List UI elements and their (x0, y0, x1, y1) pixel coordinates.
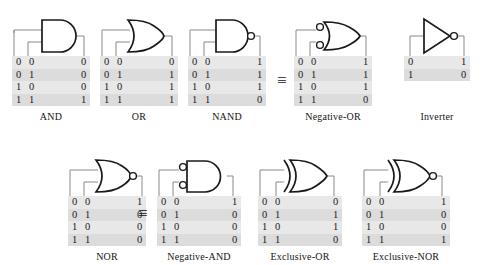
output-y: 1 (228, 197, 241, 208)
table-row: 1 1 0 (157, 234, 241, 247)
table-row: 0 1 0 (68, 209, 146, 222)
truth-table-exclusive-or: 0 0 0 0 1 1 1 0 1 1 1 0 (258, 196, 342, 246)
input-a: 1 (100, 95, 113, 106)
input-a: 0 (294, 70, 307, 81)
gate-label-or: OR (100, 111, 178, 122)
input-b: 1 (201, 70, 214, 81)
input-b: 0 (307, 57, 320, 68)
input-a: 1 (188, 95, 201, 106)
output-bubble-icon (451, 33, 458, 40)
table-row: 0 1 1 (100, 69, 178, 82)
xor-extra-curve (284, 160, 290, 192)
or-gate-icon (100, 8, 178, 56)
input-b: 0 (25, 82, 38, 93)
input-b: 1 (113, 70, 126, 81)
input-a: 1 (294, 95, 307, 106)
output-y: 1 (165, 70, 178, 81)
input-a: 1 (12, 95, 25, 106)
table-row: 0 0 1 (294, 56, 372, 69)
xnor-extra-curve (388, 160, 394, 192)
table-row: 0 1 1 (188, 69, 266, 82)
output-y: 0 (77, 82, 90, 93)
output-y: 1 (359, 70, 372, 81)
output-bubble-icon (130, 173, 137, 180)
negative-or-gate-icon (294, 8, 372, 56)
input-b: 1 (201, 95, 214, 106)
input-a: 1 (294, 82, 307, 93)
table-row: 1 0 1 (294, 81, 372, 94)
gate-label-inverter: Inverter (404, 111, 470, 122)
table-row: 0 0 0 (100, 56, 178, 69)
output-y: 0 (329, 197, 342, 208)
truth-table-nand: 0 0 1 0 1 1 1 0 1 1 1 0 (188, 56, 266, 106)
output-y: 0 (329, 235, 342, 246)
input-b: 1 (113, 95, 126, 106)
table-row: 1 1 0 (68, 234, 146, 247)
output-y: 0 (359, 95, 372, 106)
input-a: 1 (258, 222, 271, 233)
input-b: 1 (81, 210, 94, 221)
table-row: 1 0 0 (157, 221, 241, 234)
input-a: 0 (294, 57, 307, 68)
table-row: 0 1 0 (157, 209, 241, 222)
input-b: 1 (81, 235, 94, 246)
table-row: 0 1 (404, 56, 470, 69)
output-y: 0 (437, 222, 450, 233)
input-b: 0 (81, 197, 94, 208)
input-a: 0 (68, 197, 81, 208)
gate-cell-exclusive-nor: 0 0 1 0 1 0 1 0 0 1 1 1 (362, 148, 450, 262)
output-y: 1 (77, 95, 90, 106)
output-y: 1 (253, 70, 266, 81)
input-a: 0 (12, 70, 25, 81)
input-a: 0 (258, 210, 271, 221)
output-y: 1 (359, 57, 372, 68)
input-b: 0 (307, 82, 320, 93)
table-row: 1 1 0 (294, 94, 372, 107)
table-row: 1 0 1 (100, 81, 178, 94)
input-b: 1 (25, 95, 38, 106)
truth-table-negative-or: 0 0 1 0 1 1 1 0 1 1 1 0 (294, 56, 372, 106)
truth-table-negative-and: 0 0 1 0 1 0 1 0 0 1 1 0 (157, 196, 241, 246)
negative-and-gate-icon (157, 148, 241, 196)
and-gate-icon (12, 8, 90, 56)
input-a: 0 (188, 57, 201, 68)
gate-label-negative-or: Negative-OR (294, 111, 372, 122)
gate-label-nand: NAND (188, 111, 266, 122)
output-y: 0 (77, 57, 90, 68)
table-row: 1 1 1 (100, 94, 178, 107)
xnor-gate-icon (362, 148, 450, 196)
gate-cell-or: 0 0 0 0 1 1 1 0 1 1 1 1 (100, 8, 178, 122)
table-row: 1 0 (404, 69, 470, 82)
output-y: 1 (457, 57, 470, 68)
input-b: 1 (271, 210, 284, 221)
input-a: 0 (157, 197, 170, 208)
input-a: 0 (12, 57, 25, 68)
output-y: 0 (77, 70, 90, 81)
truth-table-or: 0 0 0 0 1 1 1 0 1 1 1 1 (100, 56, 178, 106)
gate-cell-nand: 0 0 1 0 1 1 1 0 1 1 1 0 (188, 8, 266, 122)
truth-table-and: 0 0 0 0 1 0 1 0 0 1 1 1 (12, 56, 90, 106)
output-bubble-icon (430, 173, 437, 180)
table-row: 1 1 0 (258, 234, 342, 247)
input-b: 0 (201, 57, 214, 68)
nand-gate-icon (188, 8, 266, 56)
input-a: 0 (258, 197, 271, 208)
logic-gates-figure: 0 0 0 0 1 0 1 0 0 1 1 1 (0, 0, 483, 265)
truth-table-inverter: 0 1 1 0 (404, 56, 470, 81)
input-b: 0 (170, 197, 183, 208)
table-row: 1 1 1 (362, 234, 450, 247)
table-row: 1 0 1 (258, 221, 342, 234)
input-a: 0 (157, 210, 170, 221)
table-row: 1 0 0 (68, 221, 146, 234)
table-row: 1 1 1 (12, 94, 90, 107)
input-b: 1 (375, 235, 388, 246)
input-bubble-icon (180, 182, 187, 189)
output-y: 0 (133, 222, 146, 233)
output-y: 0 (253, 95, 266, 106)
output-y: 1 (165, 95, 178, 106)
table-row: 0 0 1 (188, 56, 266, 69)
input-a: 1 (258, 235, 271, 246)
output-bubble-icon (248, 33, 255, 40)
input-b: 0 (271, 222, 284, 233)
output-y: 0 (228, 222, 241, 233)
